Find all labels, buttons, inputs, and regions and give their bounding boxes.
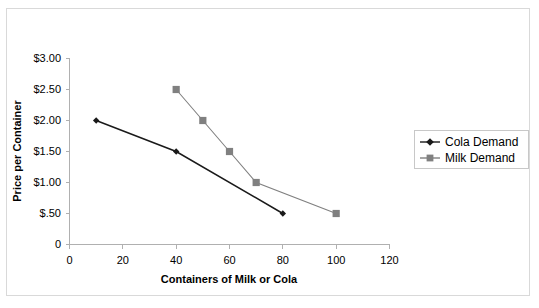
y-tick-label: $.50 [40, 207, 61, 219]
series-line [176, 90, 336, 214]
data-point-diamond [173, 148, 179, 154]
x-tick-label: 100 [327, 254, 345, 266]
legend-label-cola: Cola Demand [445, 135, 518, 149]
y-tick-label: 0 [55, 238, 61, 250]
x-tick-label: 0 [66, 254, 72, 266]
data-point-square [173, 86, 180, 93]
y-tick-label: $2.00 [33, 114, 61, 126]
x-tick-labels: 0 20 40 60 80 100 120 [66, 254, 398, 266]
x-tick-marks [70, 245, 390, 249]
y-tick-label: $1.00 [33, 176, 61, 188]
series-layer [93, 86, 340, 217]
data-point-diamond [93, 117, 99, 123]
y-tick-label: $3.00 [33, 52, 61, 64]
data-point-square [333, 210, 340, 217]
x-tick-label: 40 [170, 254, 182, 266]
series-line [96, 121, 283, 214]
x-tick-label: 20 [117, 254, 129, 266]
chart-frame: $3.00 $2.50 $2.00 $1.50 $1.00 $.50 0 0 2… [6, 8, 530, 296]
y-axis-title: Price per Container [11, 100, 23, 202]
y-tick-label: $2.50 [33, 83, 61, 95]
x-tick-label: 60 [223, 254, 235, 266]
demand-chart: $3.00 $2.50 $2.00 $1.50 $1.00 $.50 0 0 2… [7, 9, 529, 295]
y-tick-marks [66, 59, 70, 245]
y-tick-label: $1.50 [33, 145, 61, 157]
x-tick-label: 120 [380, 254, 398, 266]
data-point-diamond [280, 210, 286, 216]
square-marker-icon [427, 155, 434, 162]
y-tick-labels: $3.00 $2.50 $2.00 $1.50 $1.00 $.50 0 [33, 52, 61, 250]
data-point-square [226, 148, 233, 155]
series-cola-demand [93, 117, 286, 216]
chart-legend: Cola Demand Milk Demand [415, 131, 529, 169]
data-point-square [253, 179, 260, 186]
x-tick-label: 80 [277, 254, 289, 266]
x-axis-title: Containers of Milk or Cola [161, 273, 298, 285]
legend-label-milk: Milk Demand [445, 151, 515, 165]
data-point-square [199, 117, 206, 124]
